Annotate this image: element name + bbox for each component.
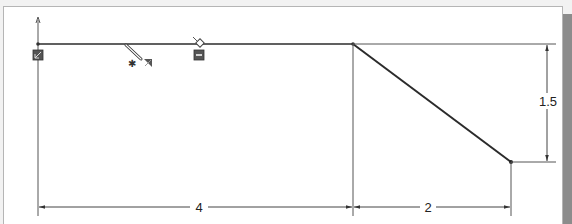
dimension-4-label[interactable]: 4 <box>195 200 202 215</box>
dimension-2-label[interactable]: 2 <box>424 200 431 215</box>
pencil-sketch-cursor-icon: ✱ <box>126 45 152 69</box>
slope-line[interactable] <box>353 44 511 162</box>
fix-relation-icon[interactable] <box>33 50 43 60</box>
asterisk-icon: ✱ <box>128 58 136 69</box>
origin-axis <box>36 17 40 216</box>
sketch-svg: 4 2 1.5 ✱ <box>0 0 572 224</box>
origin-point[interactable] <box>36 42 40 46</box>
dimension-2[interactable]: 2 <box>354 200 510 215</box>
dimension-4[interactable]: 4 <box>39 200 352 215</box>
dimension-1-5[interactable]: 1.5 <box>539 45 557 161</box>
dimension-1-5-label[interactable]: 1.5 <box>539 94 557 109</box>
horizontal-relation-icon[interactable] <box>193 37 204 60</box>
